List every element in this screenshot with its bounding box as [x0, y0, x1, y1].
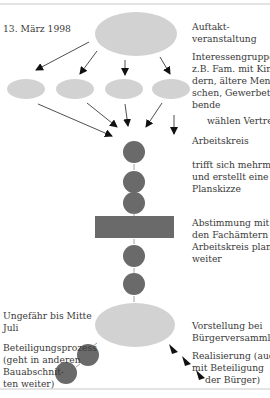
arrowhead-realization: [169, 344, 178, 354]
interest-groups-label: Interessengruppen: z.B. Fam. mit Kin- de…: [192, 51, 270, 111]
working-group-circle: [123, 141, 145, 163]
arrow-group-1-to-working: [38, 104, 112, 136]
arrow-kickoff-to-group-1: [36, 42, 89, 70]
working-group-circle: [123, 171, 145, 193]
date-end-label: Ungefähr bis Mitte Juli: [3, 310, 92, 334]
participation-label: Beteiligungsprozess (geht in anderen Bau…: [3, 342, 97, 390]
arrow-kickoff-to-group-2: [80, 51, 97, 74]
assembly-ellipse: [95, 303, 175, 347]
working-group-circle: [123, 192, 145, 214]
kickoff-label: Auftakt- veranstaltung: [192, 21, 257, 45]
planning-circle: [123, 245, 145, 267]
arrow-group-2-to-working: [87, 103, 117, 127]
interest-group-ellipse: [56, 79, 94, 99]
interest-group-ellipse: [7, 79, 45, 99]
interest-group-ellipse: [105, 79, 143, 99]
realization-label: Realisierung (auch mit Beteiligung der B…: [192, 350, 260, 386]
interest-group-ellipse: [152, 79, 190, 99]
kickoff-ellipse: [95, 12, 177, 56]
date-start-label: 13. März 1998: [3, 23, 71, 35]
presentation-label: Vorstellung bei Bürgerversammlung: [192, 320, 270, 344]
arrow-kickoff-to-group-4: [160, 57, 170, 74]
planning-circle: [123, 273, 145, 295]
meets-label: trifft sich mehrmals und erstellt eine P…: [192, 159, 270, 195]
arrowhead-realization: [182, 356, 191, 366]
working-group-label: Arbeitskreis: [192, 135, 249, 147]
arrow-group-4-to-working: [146, 103, 162, 127]
elect-reps-label: wählen Vertreter: [207, 115, 270, 127]
coordination-rect: [95, 216, 174, 238]
coordination-label: Abstimmung mit den Fachämtern Arbeitskre…: [192, 217, 270, 265]
arrow-group-3-to-working: [125, 104, 128, 126]
